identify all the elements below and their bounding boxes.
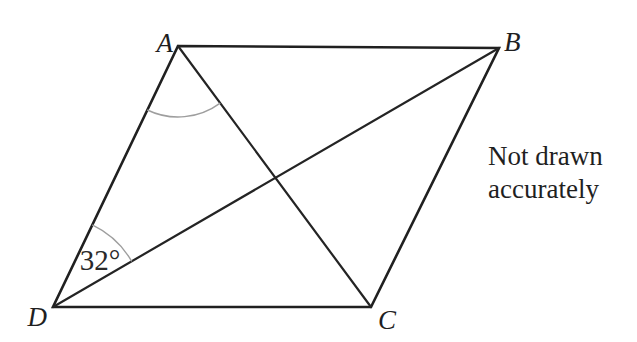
not-drawn-note-line1: Not drawn: [488, 140, 603, 173]
diagonal-ac: [178, 46, 371, 307]
angle-value-label: 32°: [80, 244, 121, 276]
not-drawn-note: Not drawn accurately: [488, 140, 603, 206]
vertex-label-a: A: [155, 28, 174, 58]
vertex-label-d: D: [27, 302, 48, 332]
angle-arc-at-a: [147, 103, 220, 117]
vertex-label-c: C: [378, 305, 397, 335]
geometry-figure: A B C D 32° Not drawn accurately: [0, 0, 637, 342]
vertex-label-b: B: [504, 27, 521, 57]
not-drawn-note-line2: accurately: [488, 173, 603, 206]
